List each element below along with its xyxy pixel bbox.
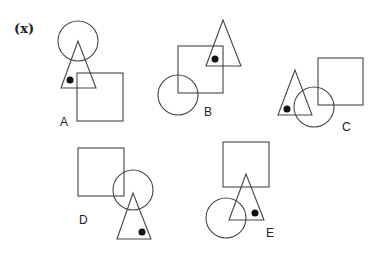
- question-label: (x): [14, 21, 34, 36]
- option-d[interactable]: D: [78, 148, 153, 239]
- option-a[interactable]: A: [58, 21, 123, 129]
- circle-shape: [206, 198, 246, 238]
- square-shape: [77, 73, 123, 121]
- option-c[interactable]: C: [278, 58, 363, 134]
- square-shape: [318, 58, 363, 105]
- option-e[interactable]: E: [206, 142, 274, 240]
- option-b[interactable]: B: [158, 20, 241, 119]
- figure-canvas: (x) ABCDE: [0, 0, 378, 253]
- triangle-shape: [278, 70, 312, 115]
- dot-marker: [284, 106, 291, 113]
- square-shape: [223, 142, 269, 187]
- dot-marker: [252, 210, 259, 217]
- triangle-shape: [61, 41, 96, 88]
- option-label: A: [60, 115, 68, 129]
- option-label: B: [204, 105, 212, 119]
- square-shape: [78, 148, 124, 196]
- square-shape: [178, 46, 223, 93]
- dot-marker: [139, 229, 146, 236]
- option-label: D: [79, 213, 88, 227]
- dot-marker: [212, 56, 219, 63]
- triangle-shape: [117, 193, 151, 239]
- option-label: C: [342, 120, 351, 134]
- triangle-shape: [229, 174, 264, 220]
- circle-shape: [113, 170, 153, 210]
- circle-shape: [294, 87, 334, 127]
- dot-marker: [67, 77, 74, 84]
- option-label: E: [266, 226, 274, 240]
